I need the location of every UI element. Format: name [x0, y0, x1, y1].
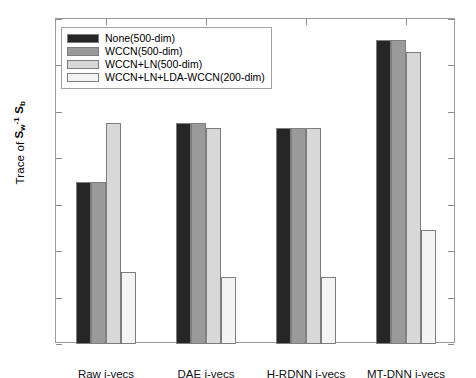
y-axis-label-prefix: Trace of	[14, 139, 26, 185]
legend-label: WCCN+LN+LDA-WCCN(200-dim)	[105, 72, 265, 82]
legend-label: None(500-dim)	[105, 33, 175, 43]
bar	[391, 40, 406, 344]
bar	[406, 52, 421, 345]
y-axis-tick-right	[448, 65, 454, 66]
bar	[291, 128, 306, 344]
y-axis-tick	[56, 344, 62, 345]
bar	[91, 182, 106, 345]
y-axis-tick-right	[448, 298, 454, 299]
legend-item: WCCN(500-dim)	[67, 45, 265, 57]
y-axis-tick	[56, 205, 62, 206]
bar	[221, 277, 236, 344]
legend-label: WCCN+LN(500-dim)	[105, 59, 202, 69]
bar	[106, 123, 121, 344]
y-axis-label-space	[14, 114, 26, 117]
bar	[121, 272, 136, 344]
y-axis-label: Trace of Sw-1 Sb	[12, 83, 27, 203]
y-axis-tick	[56, 112, 62, 113]
y-axis-tick-right	[448, 19, 454, 20]
legend-item: None(500-dim)	[67, 32, 265, 44]
x-axis-tick	[206, 336, 207, 342]
bar	[176, 123, 191, 344]
bar	[276, 128, 291, 344]
x-axis-tick-top	[406, 19, 407, 25]
x-axis-tick-top	[106, 19, 107, 25]
x-axis-tick-label: MT-DNN i-vecs	[336, 368, 476, 378]
y-axis-label-sb: Sb	[14, 101, 26, 114]
legend: None(500-dim)WCCN(500-dim)WCCN+LN(500-di…	[61, 27, 272, 89]
x-axis-tick-top	[306, 19, 307, 25]
y-axis-tick-right	[448, 251, 454, 252]
legend-swatch	[67, 60, 99, 69]
y-axis-tick-right	[448, 205, 454, 206]
y-axis-tick-right	[448, 344, 454, 345]
bar	[306, 128, 321, 344]
bar	[191, 123, 206, 344]
legend-item: WCCN+LN+LDA-WCCN(200-dim)	[67, 71, 265, 83]
y-axis-tick	[56, 251, 62, 252]
legend-item: WCCN+LN(500-dim)	[67, 58, 265, 70]
legend-label: WCCN(500-dim)	[105, 46, 183, 56]
bar	[321, 277, 336, 344]
bar	[76, 182, 91, 345]
x-axis-tick	[406, 336, 407, 342]
x-axis-tick-top	[206, 19, 207, 25]
y-axis-tick-right	[448, 112, 454, 113]
bar-chart: Trace of Sw-1 Sb 32034036038040042044046…	[0, 0, 476, 378]
y-axis-label-sw: Sw-1	[14, 117, 26, 138]
y-axis-tick	[56, 158, 62, 159]
bar	[376, 40, 391, 344]
y-axis-tick-right	[448, 158, 454, 159]
y-axis-tick	[56, 19, 62, 20]
legend-swatch	[67, 34, 99, 43]
bar	[206, 128, 221, 344]
bar	[421, 230, 436, 344]
x-axis-tick	[106, 336, 107, 342]
y-axis-tick	[56, 298, 62, 299]
legend-swatch	[67, 73, 99, 82]
legend-swatch	[67, 47, 99, 56]
x-axis-tick	[306, 336, 307, 342]
